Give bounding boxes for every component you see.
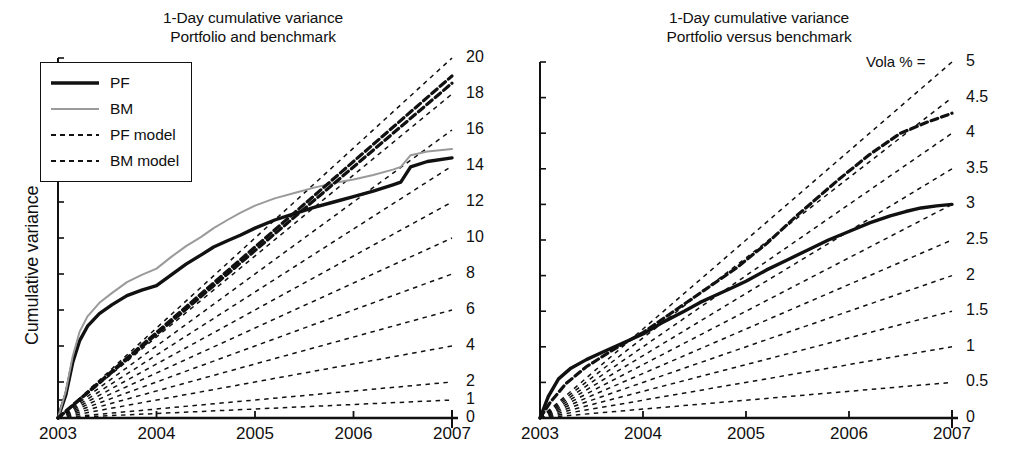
- y-tick-label: 1: [966, 338, 975, 354]
- y-tick-label: 5: [966, 53, 975, 69]
- x-tick-label: 2005: [236, 426, 274, 442]
- x-tick-label: 2007: [433, 426, 471, 442]
- y-tick-label: 2.5: [966, 231, 988, 247]
- y-tick-label: 4: [966, 124, 975, 140]
- y-tick-label: 14: [466, 157, 484, 173]
- y-tick-label: 2: [466, 373, 475, 389]
- x-tick-label: 2007: [933, 426, 971, 442]
- y-tick-label: 4: [466, 337, 475, 353]
- x-tick-label: 2006: [335, 426, 373, 442]
- y-tick-label: 16: [466, 121, 484, 137]
- legend-left: PF BM PF model BM model: [40, 62, 192, 182]
- y-tick-label: 3: [966, 195, 975, 211]
- x-tick-label: 2003: [39, 426, 77, 442]
- legend-label-bm-model: BM model: [110, 152, 179, 170]
- legend-item-pf[interactable]: PF: [49, 70, 181, 96]
- legend-swatch-solid-thin-icon: [49, 102, 101, 116]
- y-tick-label: 0.5: [966, 373, 988, 389]
- x-tick-label: 2005: [727, 426, 765, 442]
- legend-item-bm[interactable]: BM: [49, 96, 181, 122]
- x-tick-label: 2006: [830, 426, 868, 442]
- y-tick-label: 0: [466, 409, 475, 425]
- y-tick-label: 3.5: [966, 160, 988, 176]
- y-tick-label: 18: [466, 85, 484, 101]
- legend-swatch-solid-thick-icon: [49, 76, 101, 90]
- x-tick-label: 2003: [521, 426, 559, 442]
- y-tick-label: 1: [466, 391, 475, 407]
- y-tick-label: 4.5: [966, 89, 988, 105]
- x-tick-label: 2004: [624, 426, 662, 442]
- chart-panel-portfolio-and-benchmark: 1-Day cumulative variance Portfolio and …: [0, 0, 506, 468]
- plot-area-right: [506, 0, 1012, 468]
- x-tick-label: 2004: [138, 426, 176, 442]
- legend-label-pf-model: PF model: [110, 126, 176, 144]
- chart-panel-portfolio-versus-benchmark: 1-Day cumulative variance Portfolio vers…: [506, 0, 1012, 468]
- y-tick-label: 20: [466, 49, 484, 65]
- y-tick-label: 12: [466, 193, 484, 209]
- legend-item-bm-model[interactable]: BM model: [49, 148, 181, 174]
- legend-label-pf: PF: [110, 74, 130, 92]
- legend-swatch-dashed-icon: [49, 128, 101, 142]
- vola-percent-annotation: Vola % =: [866, 53, 926, 70]
- y-tick-label: 6: [466, 301, 475, 317]
- legend-swatch-dashed-icon: [49, 154, 101, 168]
- figure-root: 1-Day cumulative variance Portfolio and …: [0, 0, 1012, 468]
- y-tick-label: 2: [966, 267, 975, 283]
- y-tick-label: 8: [466, 265, 475, 281]
- y-tick-label: 0: [966, 409, 975, 425]
- y-tick-label: 1.5: [966, 302, 988, 318]
- legend-label-bm: BM: [110, 100, 133, 118]
- legend-item-pf-model[interactable]: PF model: [49, 122, 181, 148]
- y-tick-label: 10: [466, 229, 484, 245]
